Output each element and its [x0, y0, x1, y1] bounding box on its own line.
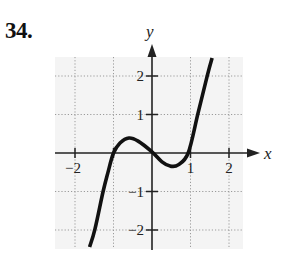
x-tick-label: 1: [187, 160, 195, 176]
x-axis-arrow-icon: [247, 149, 260, 158]
x-axis-label: x: [263, 144, 272, 163]
x-tick-label: −2: [65, 160, 81, 176]
y-axis-arrow-icon: [148, 44, 157, 57]
function-graph: −212−2−112 x y: [0, 0, 283, 262]
y-tick-label: 2: [137, 68, 145, 84]
y-tick-label: −2: [128, 222, 144, 238]
y-tick-label: −1: [128, 184, 144, 200]
x-tick-label: 2: [225, 160, 233, 176]
y-tick-label: 1: [137, 107, 145, 123]
y-axis-label: y: [144, 22, 154, 41]
